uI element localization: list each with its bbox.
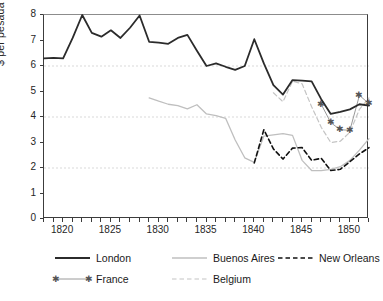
x-tick-mark (349, 218, 350, 222)
legend-label: Belgium (213, 273, 251, 285)
y-tick-label: 7 (14, 35, 36, 45)
svg-text:✱: ✱ (346, 125, 354, 135)
x-tick-mark (72, 218, 73, 222)
y-tick-label: 1 (14, 188, 36, 198)
x-tick-mark (177, 218, 178, 222)
x-tick-mark (272, 218, 273, 222)
x-tick-mark (129, 218, 130, 222)
y-tick-label: 4 (14, 111, 36, 121)
y-tick-label: 2 (14, 162, 36, 172)
legend-row: LondonBuenos AiresNew Orleans (0, 247, 383, 268)
legend-item-france[interactable]: ✱✱France (54, 268, 129, 289)
x-tick-mark (53, 218, 54, 222)
svg-text:✱: ✱ (327, 117, 335, 127)
series-london (44, 15, 369, 114)
x-tick-mark (62, 218, 63, 222)
x-tick-mark (158, 218, 159, 222)
legend-item-new-orleans[interactable]: New Orleans (277, 247, 380, 268)
y-tick-label: 0 (14, 213, 36, 223)
legend-swatch (171, 273, 208, 285)
legend-item-buenos-aires[interactable]: Buenos Aires (171, 247, 275, 268)
x-tick-mark (81, 218, 82, 222)
x-tick-mark (91, 218, 92, 222)
x-tick-mark (225, 218, 226, 222)
legend-row: ✱✱FranceBelgium (0, 268, 383, 289)
x-tick-mark (301, 218, 302, 222)
x-tick-label: 1840 (233, 225, 273, 235)
y-tick-label: 6 (14, 60, 36, 70)
x-tick-mark (167, 218, 168, 222)
svg-text:✱: ✱ (365, 98, 373, 108)
x-tick-mark (282, 218, 283, 222)
x-tick-mark (234, 218, 235, 222)
legend-swatch (171, 252, 208, 264)
x-tick-mark (110, 218, 111, 222)
svg-text:✱: ✱ (85, 274, 93, 284)
x-tick-label: 1845 (281, 225, 321, 235)
x-tick-mark (244, 218, 245, 222)
x-tick-label: 1850 (329, 225, 369, 235)
svg-text:✱: ✱ (336, 124, 344, 134)
legend-label: France (96, 273, 129, 285)
x-tick-mark (196, 218, 197, 222)
x-tick-mark (330, 218, 331, 222)
plot-area: ✱✱✱✱✱✱ (43, 14, 368, 218)
x-tick-mark (253, 218, 254, 222)
y-axis-title: $ per pesada (35 lb) (0, 0, 6, 66)
svg-text:✱: ✱ (355, 90, 363, 100)
x-tick-label: 1835 (186, 225, 226, 235)
legend-item-belgium[interactable]: Belgium (171, 268, 251, 289)
legend-item-london[interactable]: London (54, 247, 131, 268)
figure-caption (0, 288, 383, 301)
x-tick-mark (368, 218, 369, 222)
x-tick-mark (148, 218, 149, 222)
legend-swatch: ✱✱ (54, 273, 91, 285)
series-france: ✱✱✱✱✱✱ (317, 90, 373, 135)
x-tick-mark (119, 218, 120, 222)
x-tick-mark (339, 218, 340, 222)
x-tick-label: 1820 (42, 225, 82, 235)
x-tick-label: 1825 (90, 225, 130, 235)
x-tick-mark (215, 218, 216, 222)
x-tick-mark (311, 218, 312, 222)
x-tick-mark (292, 218, 293, 222)
x-tick-mark (100, 218, 101, 222)
series-layer: ✱✱✱✱✱✱ (44, 15, 367, 217)
legend-label: London (96, 252, 131, 264)
legend-swatch (54, 252, 91, 264)
x-tick-mark (263, 218, 264, 222)
series-new-orleans (254, 130, 369, 171)
x-tick-mark (139, 218, 140, 222)
chart-figure: $ per pesada (35 lb) 012345678 ✱✱✱✱✱✱ 18… (0, 0, 383, 301)
legend-label: Buenos Aires (213, 252, 275, 264)
svg-text:✱: ✱ (52, 274, 60, 284)
y-tick-label: 3 (14, 137, 36, 147)
x-tick-mark (43, 218, 44, 222)
y-tick-label: 5 (14, 86, 36, 96)
y-tick-label: 8 (14, 9, 36, 19)
x-tick-mark (206, 218, 207, 222)
x-tick-label: 1830 (138, 225, 178, 235)
x-tick-mark (186, 218, 187, 222)
legend-swatch (277, 252, 314, 264)
x-tick-mark (358, 218, 359, 222)
x-tick-mark (320, 218, 321, 222)
legend-label: New Orleans (319, 252, 380, 264)
